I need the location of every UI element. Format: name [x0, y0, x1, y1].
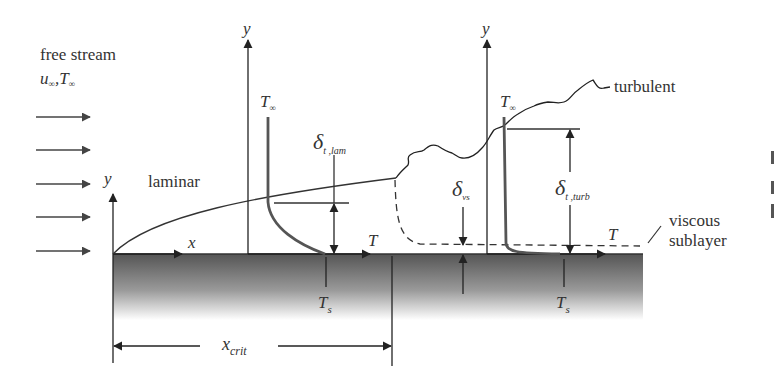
turbulent-temperature-profile	[504, 117, 560, 254]
free-stream-label: free stream	[40, 45, 116, 64]
laminar-y-label: y	[241, 19, 251, 38]
boundary-layer-diagram: free stream u∞,T∞ y laminar x y T∞ δt ,l…	[0, 0, 776, 384]
T-inf-lam-label: T∞	[260, 92, 276, 113]
T-lam-label: T	[368, 231, 379, 250]
cropped-text-fragments	[771, 151, 774, 218]
free-stream-arrows	[36, 117, 90, 251]
viscous-sublayer-line	[395, 180, 640, 246]
free-stream-vars: u∞,T∞	[40, 69, 75, 89]
delta-turb-label: δt ,turb	[555, 175, 590, 202]
T-inf-turb-label: T∞	[500, 92, 516, 113]
turbulent-y-label: y	[480, 19, 490, 38]
viscous-sublayer-label-line2: sublayer	[669, 231, 727, 250]
viscous-sublayer-label-line1: viscous	[669, 211, 720, 230]
origin-y-label: y	[102, 169, 112, 188]
laminar-label: laminar	[148, 172, 200, 191]
T-turb-label: T	[608, 225, 619, 244]
x-label: x	[187, 233, 196, 252]
delta-lam-label: δt ,lam	[313, 129, 346, 156]
x-crit-label: xcrit	[221, 334, 247, 358]
viscous-sublayer-leader	[648, 226, 661, 243]
delta-vs-label: δvs	[452, 176, 470, 202]
turbulent-label: turbulent	[614, 77, 676, 96]
